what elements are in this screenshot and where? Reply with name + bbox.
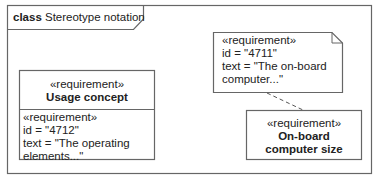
requirement-note[interactable]: «requirement» id = "4711" text = "The on… xyxy=(214,33,342,92)
note-id: id = "4711" xyxy=(222,47,277,60)
note-stereotype: «requirement» xyxy=(222,34,296,47)
frame-title: class Stereotype notation xyxy=(13,11,145,24)
usage-concept-id: id = "4712" xyxy=(23,124,79,137)
usage-concept-requirement[interactable]: «requirement» Usage concept «requirement… xyxy=(20,71,154,159)
usage-concept-compartment-stereotype: «requirement» xyxy=(23,111,97,124)
frame-keyword: class xyxy=(13,11,42,23)
usage-concept-header-stereotype: «requirement» xyxy=(20,78,154,91)
usage-concept-text-line2: elements..." xyxy=(23,150,83,163)
usage-concept-text-line1: text = "The operating xyxy=(23,137,130,150)
onboard-name-line2: computer size xyxy=(247,143,361,156)
note-anchor-line xyxy=(267,93,303,110)
note-text-line2: computer..." xyxy=(222,73,283,86)
onboard-computer-size-requirement[interactable]: «requirement» On-board computer size xyxy=(247,111,361,159)
frame-name: Stereotype notation xyxy=(45,11,145,23)
onboard-name-line1: On-board xyxy=(247,130,361,143)
onboard-stereotype: «requirement» xyxy=(247,117,361,130)
usage-concept-name: Usage concept xyxy=(20,91,154,104)
note-text-line1: text = "The on-board xyxy=(222,60,327,73)
